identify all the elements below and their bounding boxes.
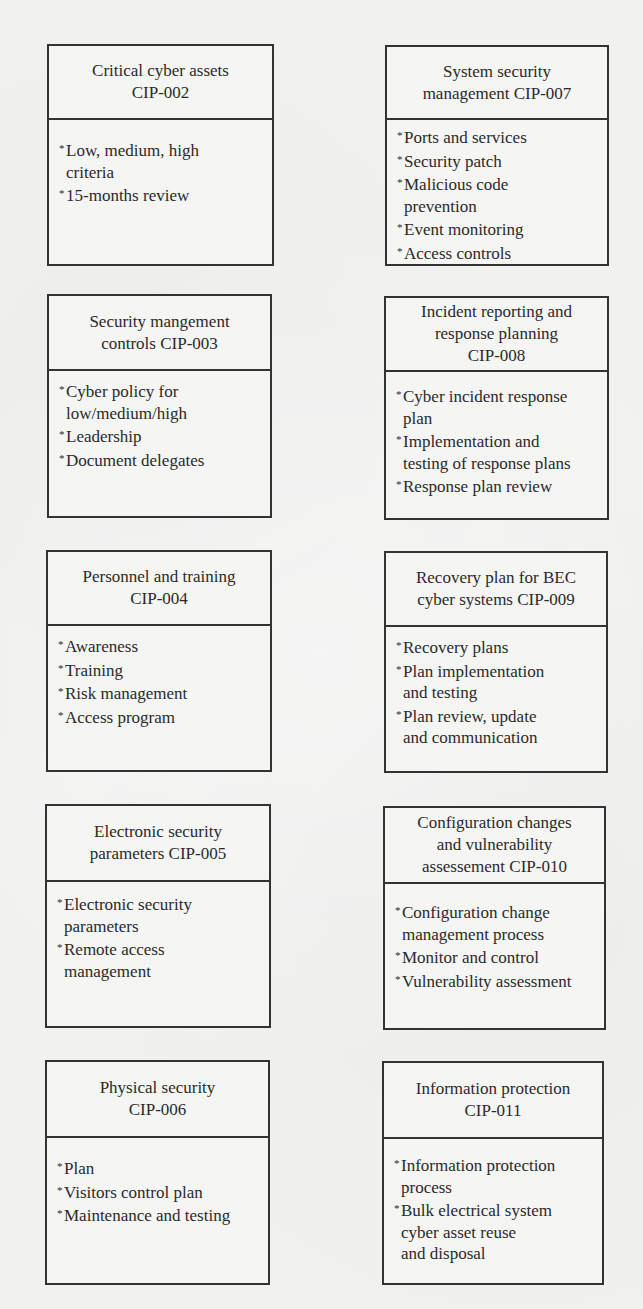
asterisk-bullet-icon: *	[397, 149, 404, 171]
bullet-item: *15-months review	[59, 183, 264, 207]
box-title: System security management CIP-007	[423, 61, 572, 105]
bullet-item: *Plan implementation and testing	[396, 659, 598, 704]
asterisk-bullet-icon: *	[397, 217, 404, 239]
box-body: *Configuration change management process…	[385, 884, 604, 1028]
asterisk-bullet-icon: *	[396, 659, 403, 681]
box-title: Physical security CIP-006	[100, 1077, 216, 1121]
bullet-list: *Cyber policy for low/medium/high *Leade…	[59, 379, 262, 471]
box-header: Incident reporting and response planning…	[386, 298, 607, 372]
bullet-item: *Vulnerability assessment	[395, 969, 596, 993]
asterisk-bullet-icon: *	[395, 945, 402, 967]
asterisk-bullet-icon: *	[59, 424, 66, 446]
bullet-item: *Malicious code prevention	[397, 172, 599, 217]
box-title: Information protection CIP-011	[416, 1078, 570, 1122]
bullet-item: *Cyber policy for low/medium/high	[59, 379, 262, 424]
box-cip-004: Personnel and training CIP-004 *Awarenes…	[46, 550, 272, 772]
box-header: Physical security CIP-006	[47, 1062, 268, 1138]
asterisk-bullet-icon: *	[57, 1156, 64, 1178]
asterisk-bullet-icon: *	[58, 634, 65, 656]
bullet-list: *Information protection process *Bulk el…	[394, 1153, 594, 1265]
box-body: *Electronic security parameters *Remote …	[47, 882, 269, 1026]
bullet-item: *Access program	[58, 705, 262, 729]
asterisk-bullet-icon: *	[58, 681, 65, 703]
asterisk-bullet-icon: *	[57, 937, 64, 959]
box-body: *Plan *Visitors control plan *Maintenanc…	[47, 1138, 268, 1283]
bullet-item: *Response plan review	[396, 474, 599, 498]
bullet-item: *Risk management	[58, 681, 262, 705]
box-header: Security mangement controls CIP-003	[49, 296, 270, 371]
box-header: Configuration changes and vulnerability …	[385, 808, 604, 884]
asterisk-bullet-icon: *	[397, 241, 404, 263]
box-body: *Ports and services *Security patch *Mal…	[387, 120, 607, 264]
box-title: Configuration changes and vulnerability …	[417, 812, 571, 878]
bullet-item: *Event monitoring	[397, 217, 599, 241]
asterisk-bullet-icon: *	[59, 448, 66, 470]
bullet-item: *Training	[58, 658, 262, 682]
bullet-list: *Awareness *Training *Risk management *A…	[58, 634, 262, 728]
asterisk-bullet-icon: *	[396, 384, 403, 406]
asterisk-bullet-icon: *	[397, 125, 404, 147]
bullet-list: *Ports and services *Security patch *Mal…	[397, 125, 599, 264]
asterisk-bullet-icon: *	[396, 704, 403, 726]
bullet-list: *Low, medium, high criteria *15-months r…	[59, 138, 264, 207]
bullet-item: *Monitor and control	[395, 945, 596, 969]
asterisk-bullet-icon: *	[57, 892, 64, 914]
bullet-list: *Configuration change management process…	[395, 900, 596, 992]
box-header: Recovery plan for BEC cyber systems CIP-…	[386, 553, 606, 627]
box-header: Personnel and training CIP-004	[48, 552, 270, 626]
bullet-item: *Access controls	[397, 241, 599, 265]
bullet-item: *Awareness	[58, 634, 262, 658]
box-cip-010: Configuration changes and vulnerability …	[383, 806, 606, 1030]
box-title: Critical cyber assets CIP-002	[92, 60, 229, 104]
bullet-list: *Plan *Visitors control plan *Maintenanc…	[57, 1156, 260, 1227]
asterisk-bullet-icon: *	[396, 635, 403, 657]
box-cip-009: Recovery plan for BEC cyber systems CIP-…	[384, 551, 608, 773]
asterisk-bullet-icon: *	[59, 183, 66, 205]
asterisk-bullet-icon: *	[59, 379, 66, 401]
box-cip-003: Security mangement controls CIP-003 *Cyb…	[47, 294, 272, 518]
asterisk-bullet-icon: *	[395, 969, 402, 991]
bullet-item: *Low, medium, high criteria	[59, 138, 264, 183]
box-cip-002: Critical cyber assets CIP-002 *Low, medi…	[47, 44, 274, 266]
box-title: Electronic security parameters CIP-005	[90, 821, 226, 865]
asterisk-bullet-icon: *	[396, 474, 403, 496]
bullet-item: *Plan	[57, 1156, 260, 1180]
box-cip-006: Physical security CIP-006 *Plan *Visitor…	[45, 1060, 270, 1285]
box-body: *Information protection process *Bulk el…	[384, 1139, 602, 1283]
box-title: Incident reporting and response planning…	[421, 301, 572, 367]
bullet-item: *Implementation and testing of response …	[396, 429, 599, 474]
bullet-item: *Remote access management	[57, 937, 261, 982]
bullet-item: *Recovery plans	[396, 635, 598, 659]
box-body: *Cyber policy for low/medium/high *Leade…	[49, 371, 270, 516]
asterisk-bullet-icon: *	[59, 138, 66, 160]
box-header: Critical cyber assets CIP-002	[49, 46, 272, 120]
box-cip-007: System security management CIP-007 *Port…	[385, 45, 609, 266]
box-body: *Recovery plans *Plan implementation and…	[386, 627, 606, 771]
bullet-list: *Electronic security parameters *Remote …	[57, 892, 261, 982]
asterisk-bullet-icon: *	[395, 900, 402, 922]
box-cip-011: Information protection CIP-011 *Informat…	[382, 1061, 604, 1285]
asterisk-bullet-icon: *	[58, 658, 65, 680]
bullet-item: *Bulk electrical system cyber asset reus…	[394, 1198, 594, 1265]
box-header: System security management CIP-007	[387, 47, 607, 120]
bullet-item: *Ports and services	[397, 125, 599, 149]
asterisk-bullet-icon: *	[58, 705, 65, 727]
bullet-list: *Cyber incident response plan *Implement…	[396, 384, 599, 498]
box-body: *Cyber incident response plan *Implement…	[386, 372, 607, 518]
bullet-item: *Configuration change management process	[395, 900, 596, 945]
asterisk-bullet-icon: *	[394, 1198, 401, 1220]
bullet-item: *Information protection process	[394, 1153, 594, 1198]
asterisk-bullet-icon: *	[396, 429, 403, 451]
bullet-item: *Visitors control plan	[57, 1180, 260, 1204]
box-title: Personnel and training CIP-004	[83, 566, 236, 610]
box-cip-008: Incident reporting and response planning…	[384, 296, 609, 520]
bullet-item: *Electronic security parameters	[57, 892, 261, 937]
bullet-item: *Document delegates	[59, 448, 262, 472]
box-cip-005: Electronic security parameters CIP-005 *…	[45, 804, 271, 1028]
bullet-list: *Recovery plans *Plan implementation and…	[396, 635, 598, 749]
asterisk-bullet-icon: *	[394, 1153, 401, 1175]
box-header: Electronic security parameters CIP-005	[47, 806, 269, 882]
box-title: Security mangement controls CIP-003	[89, 311, 229, 355]
asterisk-bullet-icon: *	[57, 1203, 64, 1225]
bullet-item: *Plan review, update and communication	[396, 704, 598, 749]
